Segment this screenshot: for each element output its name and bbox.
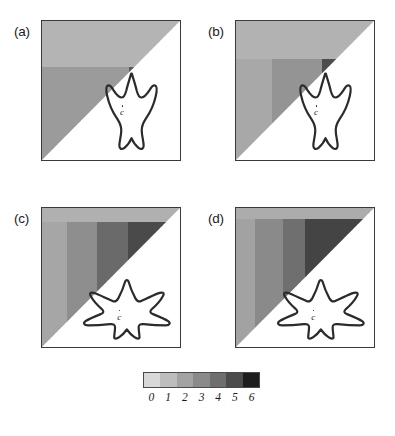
center-label-a: c [120, 107, 124, 117]
plot-frame-a: c [41, 20, 181, 161]
panel-label-b: (b) [208, 24, 224, 39]
field-region-a-2 [129, 67, 180, 160]
field-region-b-1 [236, 59, 272, 160]
triangular-mask-c [41, 207, 181, 348]
scalar-field-d [236, 208, 374, 347]
outline-shape-a [97, 68, 166, 154]
field-region-a-1 [42, 67, 129, 160]
field-region-c-2 [67, 222, 97, 347]
scalar-field-c [42, 208, 180, 347]
field-region-c-0 [42, 208, 180, 222]
center-label-dot-a [122, 105, 124, 107]
center-label-b: c [314, 107, 318, 117]
colorbar-tick-1: 1 [160, 391, 177, 403]
diagonal-stairstep-a [42, 21, 180, 160]
colorbar-cell-1 [160, 373, 176, 387]
colorbar-tick-0: 0 [143, 391, 160, 403]
field-region-b-0 [236, 21, 374, 59]
triangular-mask-d [235, 207, 375, 348]
figure-root: (a)c(b)c(c)c(d)c 0123456 [0, 0, 395, 436]
colorbar-tick-4: 4 [210, 391, 227, 403]
panel-a: (a)c [0, 0, 395, 436]
colorbar-cell-3 [193, 373, 209, 387]
field-region-a-0 [42, 21, 180, 67]
scalar-field-a [42, 21, 180, 160]
field-region-c-3 [97, 222, 127, 347]
colorbar-cell-6 [243, 373, 259, 387]
colorbar-tick-5: 5 [227, 391, 244, 403]
plot-frame-d: c [235, 207, 375, 348]
plot-frame-b: c [235, 20, 375, 161]
colorbar [143, 372, 260, 388]
plot-frame-c: c [41, 207, 181, 348]
colorbar-tick-labels: 0123456 [143, 391, 260, 403]
colorbar-cell-4 [210, 373, 226, 387]
diagonal-stairstep-c [42, 208, 180, 347]
triangular-mask-b [235, 20, 375, 161]
colorbar-cell-2 [177, 373, 193, 387]
field-region-d-3 [283, 219, 305, 347]
panel-b: (b)c [0, 0, 395, 436]
colorbar-cell-0 [144, 373, 160, 387]
colorbar-cell-5 [226, 373, 242, 387]
outline-shape-b [291, 68, 360, 154]
panel-label-c: (c) [14, 211, 29, 226]
center-label-c: c [117, 312, 121, 322]
outline-shape-c [83, 278, 174, 342]
colorbar-tick-6: 6 [243, 391, 260, 403]
colorbar-tick-3: 3 [193, 391, 210, 403]
center-label-dot-c [119, 310, 121, 312]
center-label-dot-d [313, 310, 315, 312]
field-region-d-2 [255, 219, 283, 347]
diagonal-stairstep-b [236, 21, 374, 160]
field-region-d-4 [305, 219, 374, 347]
field-region-d-1 [236, 219, 255, 347]
panel-label-a: (a) [14, 24, 30, 39]
field-region-b-3 [322, 59, 374, 160]
triangular-mask-a [41, 20, 181, 161]
field-region-d-0 [236, 208, 374, 219]
center-label-dot-b [316, 105, 318, 107]
panel-d: (d)c [0, 0, 395, 436]
colorbar-tick-2: 2 [176, 391, 193, 403]
diagonal-stairstep-d [236, 208, 374, 347]
panel-c: (c)c [0, 0, 395, 436]
field-region-c-4 [128, 222, 180, 347]
scalar-field-b [236, 21, 374, 160]
panel-label-d: (d) [208, 211, 224, 226]
field-region-b-2 [272, 59, 322, 160]
outline-shape-d [277, 278, 368, 342]
center-label-d: c [311, 312, 315, 322]
field-region-c-1 [42, 222, 67, 347]
